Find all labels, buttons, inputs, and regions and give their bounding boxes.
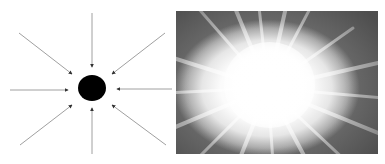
dark-vignette: [176, 11, 378, 154]
light-burst-image: [176, 11, 378, 154]
implosion-diagram: [0, 0, 176, 164]
inward-arrows-graphic: [0, 0, 176, 164]
black-sphere: [78, 75, 106, 101]
